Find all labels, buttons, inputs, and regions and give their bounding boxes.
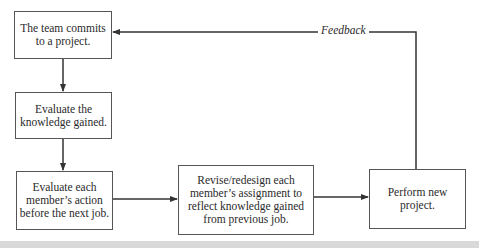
node-perform-new-project-label: Perform new project. xyxy=(388,186,448,212)
node-revise-assignment: Revise/redesign each member’s assignment… xyxy=(178,165,314,235)
node-team-commits-label: The team commits to a project. xyxy=(20,22,106,48)
bottom-band xyxy=(0,241,479,248)
feedback-loop-line xyxy=(113,32,416,169)
node-team-commits: The team commits to a project. xyxy=(14,11,112,59)
node-revise-assignment-label: Revise/redesign each member’s assignment… xyxy=(188,174,304,226)
node-perform-new-project: Perform new project. xyxy=(369,169,466,229)
node-evaluate-members-label: Evaluate each member’s action before the… xyxy=(20,181,109,220)
node-evaluate-knowledge: Evaluate the knowledge gained. xyxy=(15,92,112,139)
feedback-label: Feedback xyxy=(318,24,369,36)
node-evaluate-knowledge-label: Evaluate the knowledge gained. xyxy=(20,103,107,129)
node-evaluate-members: Evaluate each member’s action before the… xyxy=(16,171,113,230)
